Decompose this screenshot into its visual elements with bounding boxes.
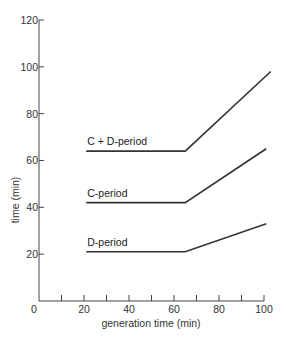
line-chart: 02040608010020406080100120 C + D-periodC… xyxy=(0,0,286,344)
y-tick-label: 100 xyxy=(20,61,38,73)
x-axis-title: generation time (min) xyxy=(101,317,200,329)
y-tick-label: 60 xyxy=(26,154,38,166)
x-tick-label: 80 xyxy=(213,303,225,315)
x-tick-label: 60 xyxy=(168,303,180,315)
y-tick-label: 80 xyxy=(26,108,38,120)
x-tick-label: 20 xyxy=(78,303,90,315)
series-label: C-period xyxy=(87,187,127,199)
y-tick-label: 40 xyxy=(26,201,38,213)
axes: 02040608010020406080100120 xyxy=(20,14,272,315)
series-label: D-period xyxy=(87,236,127,248)
y-tick-label: 20 xyxy=(26,248,38,260)
series-label: C + D-period xyxy=(87,135,147,147)
x-tick-label: 40 xyxy=(123,303,135,315)
x-tick-label: 100 xyxy=(255,303,273,315)
x-tick-label: 0 xyxy=(31,303,37,315)
y-tick-label: 120 xyxy=(20,14,38,26)
series-layer: C + D-periodC-periodD-period xyxy=(86,71,271,251)
y-axis-title: time (min) xyxy=(9,177,21,224)
